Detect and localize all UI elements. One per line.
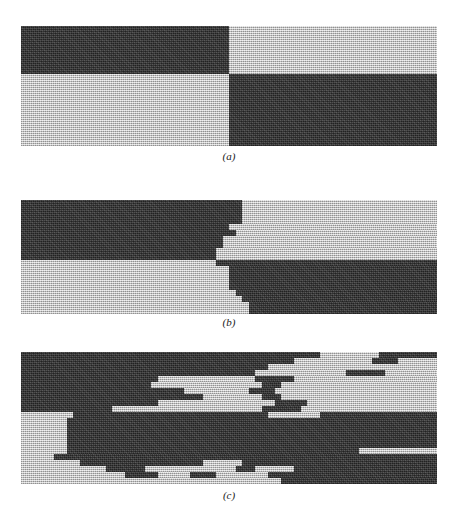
figure-container: (a) (b) (c) (0, 0, 458, 515)
dark-cell (281, 478, 437, 484)
panel-b-wrap (21, 200, 437, 314)
raster-row (21, 308, 437, 314)
raster-row (21, 140, 437, 146)
panel-c-wrap (21, 352, 437, 484)
raster-row (21, 478, 437, 484)
dark-cell (229, 140, 437, 146)
panel-b-caption: (b) (0, 316, 458, 328)
panel-a (21, 26, 437, 146)
light-cell (21, 140, 229, 146)
light-cell (21, 308, 249, 314)
panel-a-caption: (a) (0, 150, 458, 162)
panel-b (21, 200, 437, 314)
light-cell (21, 478, 281, 484)
dark-cell (249, 308, 438, 314)
panel-a-wrap (21, 26, 437, 146)
panel-c (21, 352, 437, 484)
panel-c-caption: (c) (0, 489, 458, 501)
